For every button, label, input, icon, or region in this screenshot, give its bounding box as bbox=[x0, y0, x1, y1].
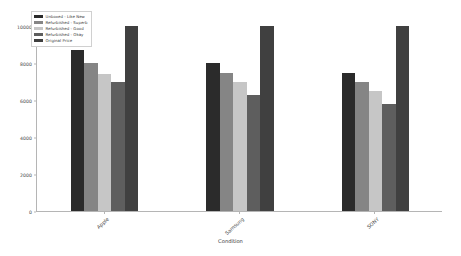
legend-item: Refurbished - Good bbox=[34, 26, 88, 32]
x-axis: AppleSamsungSONY bbox=[36, 212, 442, 238]
legend-swatch bbox=[34, 21, 43, 24]
legend-label: Original Price bbox=[46, 38, 73, 43]
bar bbox=[125, 26, 139, 211]
bar bbox=[369, 91, 383, 211]
bar bbox=[220, 73, 234, 211]
x-axis-tick-label: Apple bbox=[95, 216, 110, 230]
legend: Unboxed - Like NewRefurbished - SuperbRe… bbox=[31, 11, 92, 47]
legend-label: Refurbished - Okay bbox=[46, 32, 84, 37]
x-axis-tick-mark bbox=[104, 212, 105, 214]
legend-swatch bbox=[34, 15, 43, 18]
legend-swatch bbox=[34, 33, 43, 36]
legend-swatch bbox=[34, 27, 43, 30]
bar bbox=[382, 104, 396, 211]
plot-area bbox=[36, 20, 442, 212]
legend-item: Refurbished - Superb bbox=[34, 20, 88, 26]
legend-swatch bbox=[34, 39, 43, 42]
bar bbox=[84, 63, 98, 211]
y-axis-tick-label: 0 bbox=[29, 210, 32, 215]
y-axis: 0200040006000800010000 bbox=[0, 20, 36, 212]
bars-layer bbox=[37, 20, 442, 211]
x-axis-tick-label: Samsung bbox=[224, 216, 245, 236]
x-axis-tick-mark bbox=[239, 212, 240, 214]
bar bbox=[98, 74, 112, 211]
x-axis-title: Condition bbox=[0, 238, 461, 244]
y-axis-tick-label: 4000 bbox=[20, 136, 32, 141]
legend-item: Refurbished - Okay bbox=[34, 32, 88, 38]
bar bbox=[260, 26, 274, 211]
x-axis-tick-mark bbox=[374, 212, 375, 214]
legend-label: Refurbished - Superb bbox=[46, 20, 88, 25]
bar bbox=[247, 95, 261, 211]
legend-label: Unboxed - Like New bbox=[46, 14, 85, 19]
legend-item: Unboxed - Like New bbox=[34, 14, 88, 20]
x-axis-tick-label: SONY bbox=[366, 216, 380, 230]
bar bbox=[111, 82, 125, 211]
y-axis-tick-label: 2000 bbox=[20, 173, 32, 178]
bar bbox=[233, 82, 247, 211]
bar bbox=[342, 73, 356, 211]
bar-chart-figure: 0200040006000800010000 AppleSamsungSONY … bbox=[0, 0, 461, 256]
legend-item: Original Price bbox=[34, 38, 88, 44]
bar bbox=[355, 82, 369, 211]
y-axis-tick-label: 6000 bbox=[20, 99, 32, 104]
bar bbox=[71, 50, 85, 211]
y-axis-tick-label: 10000 bbox=[17, 25, 32, 30]
bar bbox=[396, 26, 410, 211]
legend-label: Refurbished - Good bbox=[46, 26, 84, 31]
y-axis-tick-label: 8000 bbox=[20, 62, 32, 67]
bar bbox=[206, 63, 220, 211]
